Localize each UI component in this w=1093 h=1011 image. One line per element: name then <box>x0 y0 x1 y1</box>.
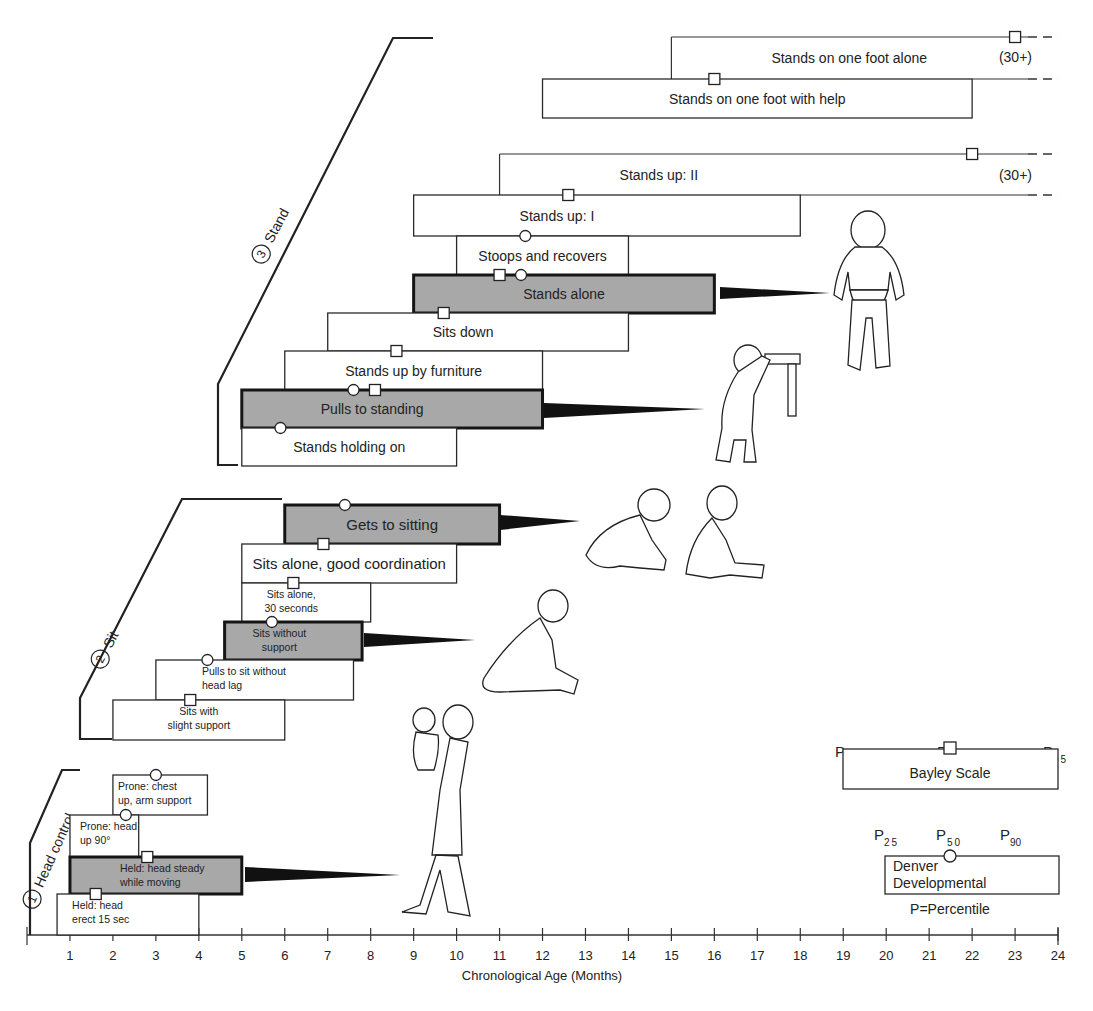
denver-p50-marker <box>520 231 531 242</box>
milestone-stands-up-by-furniture: Stands up by furniture <box>285 346 543 391</box>
milestone-label: up, arm support <box>118 794 192 806</box>
milestone-prone-chest-up-arm-support: Prone: chestup, arm support <box>113 770 208 816</box>
milestone-pulls-to-standing: Pulls to standing <box>242 385 543 429</box>
x-tick-label: 5 <box>238 948 245 963</box>
milestone-prone-head-up-90: Prone: headup 90° <box>70 810 139 858</box>
legend-denver: P 25 P 50 P 90 Denver Developmental P=Pe… <box>874 826 1059 917</box>
milestone-bars: Stands on one foot aloneStands on one fo… <box>57 32 1058 936</box>
milestone-label: while moving <box>119 876 181 888</box>
milestone-label: erect 15 sec <box>72 913 129 925</box>
denver-p50-marker <box>348 385 359 396</box>
x-tick-label: 14 <box>621 948 635 963</box>
illustration-infant-sitting-without-support <box>483 590 578 694</box>
milestone-stoops-and-recovers: Stoops and recovers <box>457 231 629 276</box>
milestone-label: Stands up: I <box>520 208 595 224</box>
milestone-label: Stands holding on <box>293 439 405 455</box>
milestone-sits-without-support: Sits withoutsupport <box>225 617 362 661</box>
legend-bayley: P 5 P 50 P 95 Bayley Scale <box>835 742 1068 789</box>
bayley-square-marker <box>944 742 956 754</box>
milestone-sits-with-slight-support: Sits withslight support <box>113 695 285 741</box>
illustration-toddler-standing-alone <box>834 211 904 370</box>
bayley-p50-marker <box>318 539 329 550</box>
milestone-label: 30 seconds <box>264 602 318 614</box>
milestone-stands-on-one-foot-with-help: Stands on one foot with help <box>543 74 973 119</box>
milestone-label: Sits with <box>179 705 218 717</box>
denver-p50-marker <box>150 770 161 781</box>
x-tick-label: 3 <box>152 948 159 963</box>
group-name-stand: Stand <box>261 206 292 246</box>
group-number-head: 1 <box>24 893 40 905</box>
group-number-stand: 3 <box>253 248 269 261</box>
milestone-label: support <box>262 641 297 653</box>
bayley-p50-marker <box>494 270 505 281</box>
milestone-label: Stoops and recovers <box>478 248 606 264</box>
milestone-label: Pulls to sit without <box>202 665 286 677</box>
illustration-infant-sitting <box>686 486 764 578</box>
bayley-p50-marker <box>142 852 153 863</box>
svg-text:P: P <box>936 826 946 843</box>
x-tick-label: 6 <box>281 948 288 963</box>
x-tick-label: 8 <box>367 948 374 963</box>
denver-p50-marker <box>202 655 213 666</box>
bayley-p50-marker <box>391 346 402 357</box>
svg-text:P: P <box>874 826 884 843</box>
milestone-label: Sits alone, good coordination <box>252 555 445 572</box>
x-tick-label: 21 <box>922 948 936 963</box>
bayley-p50-marker <box>1010 32 1021 43</box>
motor-milestones-chart: 123456789101112131415161718192021222324 … <box>0 0 1093 1011</box>
x-tick-label: 11 <box>493 948 507 963</box>
x-tick-label: 24 <box>1051 948 1065 963</box>
bayley-p50-marker <box>563 190 574 201</box>
svg-text:50: 50 <box>947 837 962 848</box>
denver-p50-marker <box>275 423 286 434</box>
svg-text:P: P <box>1000 826 1010 843</box>
x-tick-label: 23 <box>1008 948 1022 963</box>
x-tick-label: 20 <box>879 948 893 963</box>
milestone-label: Held: head <box>72 899 123 911</box>
milestone-stands-alone: Stands alone <box>414 270 715 314</box>
x-tick-label: 4 <box>195 948 202 963</box>
legend-denver-line1: Denver <box>893 858 938 874</box>
x-tick-label: 2 <box>109 948 116 963</box>
milestone-sits-alone-30-seconds: Sits alone,30 seconds <box>242 578 371 623</box>
milestone-stands-holding-on: Stands holding on <box>242 423 457 467</box>
group-number-sit: 2 <box>92 653 108 666</box>
milestone-gets-to-sitting: Gets to sitting <box>285 500 500 545</box>
x-tick-label: 22 <box>965 948 979 963</box>
x-tick-label: 16 <box>707 948 721 963</box>
milestone-held-head-erect-15-sec: Held: headerect 15 sec <box>57 889 199 936</box>
svg-text:90: 90 <box>1010 837 1022 848</box>
x-axis-label: Chronological Age (Months) <box>462 968 622 983</box>
illustration-infant-getting-to-sitting <box>586 489 670 570</box>
milestone-label: Stands on one foot alone <box>771 50 927 66</box>
milestone-sits-down: Sits down <box>328 308 629 352</box>
milestone-label: Stands up by furniture <box>345 363 482 379</box>
milestone-label: Gets to sitting <box>346 516 438 533</box>
milestone-held-head-steady-while-moving: Held: head steadywhile moving <box>70 852 242 895</box>
x-tick-label: 7 <box>324 948 331 963</box>
bayley-p50-marker <box>438 308 449 319</box>
milestone-label: up 90° <box>80 834 110 846</box>
x-tick-label: 10 <box>449 948 463 963</box>
denver-p50-marker <box>266 617 277 628</box>
x-tick-label: 18 <box>793 948 807 963</box>
milestone-label: Sits alone, <box>267 588 316 600</box>
milestone-label: Held: head steady <box>120 862 205 874</box>
legend-bayley-label: Bayley Scale <box>910 765 991 781</box>
legend-note: P=Percentile <box>910 901 990 917</box>
denver-p50-marker <box>339 500 350 511</box>
milestone-label: Prone: chest <box>118 780 177 792</box>
bayley-p50-marker <box>709 74 720 85</box>
bayley-p50-marker <box>369 385 380 396</box>
denver-p50-marker <box>120 810 131 821</box>
svg-text:25: 25 <box>884 837 899 848</box>
bayley-p50-marker <box>288 578 299 589</box>
overflow-label-one-foot-alone: (30+) <box>999 49 1032 65</box>
x-tick-label: 12 <box>535 948 549 963</box>
denver-p50-marker <box>516 270 527 281</box>
x-tick-label: 17 <box>750 948 764 963</box>
x-tick-label: 13 <box>578 948 592 963</box>
milestone-stands-up-ii: Stands up: II <box>500 149 1058 196</box>
milestone-label: Sits down <box>433 324 494 340</box>
illustration-mother-holding-infant <box>402 705 473 916</box>
